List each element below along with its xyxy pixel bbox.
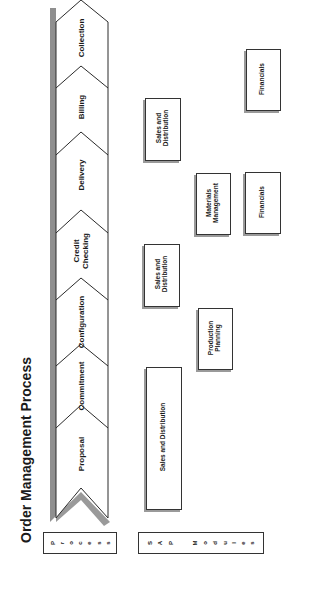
sap-letter: l [231, 542, 237, 544]
sap-letter: A [158, 541, 164, 545]
module-label: Financials [255, 172, 269, 232]
module-line: Sales and [154, 259, 161, 289]
step-credit-line2: Checking [82, 233, 91, 269]
module-label: Production Planning [197, 308, 231, 368]
sap-letter: M [191, 541, 197, 546]
step-billing: Billing [76, 77, 88, 137]
module-line: Distribution [161, 256, 168, 292]
step-delivery: Delivery [76, 145, 88, 205]
process-letter: r [59, 542, 65, 544]
sap-letter: e [239, 541, 245, 544]
step-configuration: Configuration [76, 282, 88, 362]
sap-letter: d [212, 541, 218, 545]
sap-letter: P [168, 541, 174, 545]
sap-letter: u [222, 541, 228, 545]
process-letter: s [104, 541, 110, 544]
module-line: Production [207, 321, 214, 355]
sap-letter: S [147, 541, 153, 545]
sap-letter: o [202, 541, 208, 545]
module-label: Sales and Distribution [156, 367, 170, 507]
chevron-shadow [50, 8, 56, 522]
row-label-process: P r o c e s s [43, 532, 117, 554]
process-letter: c [77, 541, 83, 544]
sap-letter: s [249, 541, 255, 544]
module-label: Sales and Distribution [145, 98, 179, 158]
step-collection: Collection [76, 3, 88, 73]
module-line: Distribution [162, 110, 169, 146]
row-label-sap-modules: S A P M o d u l e s [138, 532, 264, 554]
module-label: Materials Management [195, 173, 229, 233]
module-line: Planning [214, 324, 221, 351]
step-proposal: Proposal [76, 419, 88, 489]
process-letter: s [95, 541, 101, 544]
process-letter: e [86, 541, 92, 544]
step-credit-checking: Credit Checking [71, 226, 93, 276]
module-line: Sales and [155, 113, 162, 143]
process-letter: P [50, 541, 56, 545]
module-line: Management [212, 183, 219, 223]
module-label: Financials [255, 49, 269, 109]
process-letter: o [68, 541, 74, 545]
module-label: Sales and Distribution [144, 244, 178, 304]
module-line: Materials [205, 189, 212, 217]
